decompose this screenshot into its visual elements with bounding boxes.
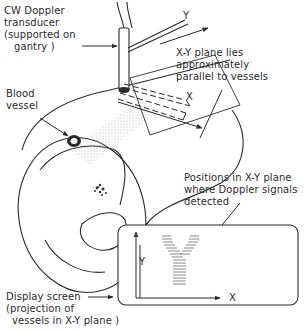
transducer-label: CW Doppler transducer (supported on gant… (4, 5, 76, 53)
plane-label: X-Y plane lies approximately parallel to… (176, 47, 268, 83)
screen-y-axis-label: Y (139, 256, 145, 268)
scan-x-axis-label: X (186, 91, 193, 103)
blood-vessel-label: Blood vessel (6, 88, 38, 112)
vessel-pointer (40, 118, 68, 136)
screen-x-axis-label: X (229, 292, 236, 304)
blood-vessel-icon (67, 135, 81, 147)
positions-label: Positions in X-Y plane where Doppler sig… (184, 172, 298, 208)
scan-y-axis (160, 28, 208, 44)
scan-y-axis-label: Y (183, 10, 189, 22)
plane-pointer (200, 90, 222, 138)
vessel-shading (70, 100, 160, 165)
display-label: Display screen (projection of vessels in… (6, 291, 119, 327)
bone-marrow-texture (94, 184, 107, 196)
